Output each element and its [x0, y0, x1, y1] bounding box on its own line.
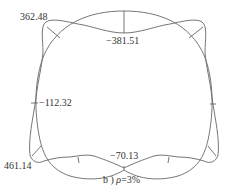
invert-moment-label: −70.13	[110, 151, 138, 161]
figure-caption: b ) ρ=3%	[103, 175, 140, 185]
invert-right-ordinate	[168, 157, 169, 163]
top-left-ordinate	[47, 27, 60, 38]
bottom-left-ordinate	[32, 146, 41, 156]
top-right-ordinate	[189, 27, 203, 38]
crown-moment-label: −381.51	[106, 36, 139, 46]
invert-left-ordinate	[78, 157, 79, 163]
moment-diagram-svg	[0, 0, 230, 193]
caption-suffix: =3%	[121, 174, 140, 185]
bottom-left-moment-label: 461.14	[4, 161, 32, 171]
top-left-moment-label: 362.48	[20, 12, 48, 22]
bottom-right-ordinate	[208, 146, 216, 156]
caption-prefix: b )	[103, 174, 114, 185]
left-wall-moment-label: −112.32	[39, 98, 72, 108]
moment-diagram-figure: 362.48 −381.51 −112.32 461.14 −70.13 b )…	[0, 0, 230, 193]
